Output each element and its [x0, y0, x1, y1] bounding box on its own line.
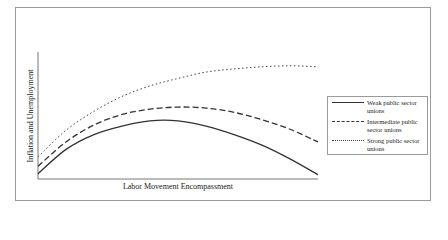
- series-weak-line: [38, 120, 318, 175]
- series-intermediate-line: [38, 107, 318, 166]
- legend: Weak public sector unions Intermediate p…: [327, 96, 428, 155]
- series-strong-line: [38, 66, 318, 157]
- x-axis-label: Labor Movement Encompassment: [38, 182, 318, 191]
- dashed-line-icon: [332, 121, 364, 122]
- y-axis-label: Inflation and Unemployment: [26, 51, 35, 181]
- dotted-line-icon: [332, 140, 364, 141]
- solid-line-icon: [332, 102, 364, 103]
